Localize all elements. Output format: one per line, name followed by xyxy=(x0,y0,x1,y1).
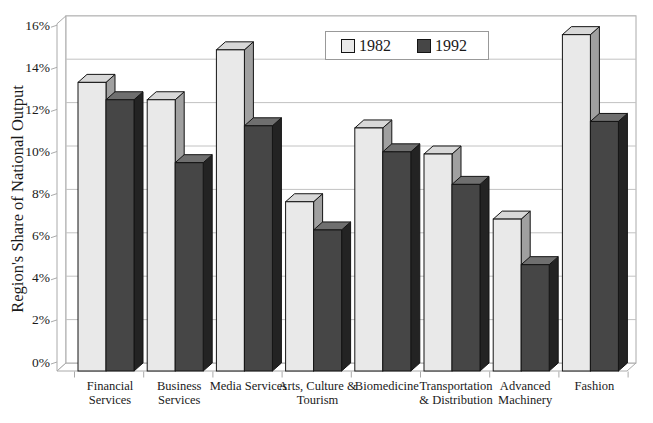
category-label-advanced-machinery: AdvancedMachinery xyxy=(498,379,553,408)
bar-arts-culture-tourism-1992 xyxy=(314,230,342,371)
legend-swatch-1992 xyxy=(417,39,431,53)
bar-fashion-1982 xyxy=(562,35,590,371)
bar-media-services-1992 xyxy=(244,126,272,371)
ytick-label-6pct: 6% xyxy=(32,228,50,243)
bar-business-services-1992-side xyxy=(203,155,212,371)
bar-financial-services-1992-side xyxy=(134,92,143,371)
bar-transportation-distribution-1992 xyxy=(452,184,480,371)
bar-arts-culture-tourism-1982 xyxy=(286,202,314,371)
ytick-mark-8pct xyxy=(51,194,57,196)
bar-transportation-distribution-1982 xyxy=(424,154,452,371)
ytick-mark-10pct xyxy=(51,152,57,154)
ytick-label-14pct: 14% xyxy=(25,60,50,75)
bar-advanced-machinery-1992-side xyxy=(549,257,558,371)
legend-item-1992: 1992 xyxy=(417,38,467,54)
ytick-label-8pct: 8% xyxy=(32,186,50,201)
bar-media-services-1982 xyxy=(216,50,244,371)
category-label-biomedicine: Biomedicine xyxy=(355,379,419,393)
bar-biomedicine-1992-side xyxy=(411,144,420,371)
bar-fashion-1992-side xyxy=(618,113,627,371)
category-label-media-services: Media Services xyxy=(210,379,288,393)
bar-financial-services-1982 xyxy=(78,82,106,371)
legend-label-1982: 1982 xyxy=(359,38,391,54)
ytick-label-0pct: 0% xyxy=(32,355,50,370)
ytick-label-12pct: 12% xyxy=(25,102,50,117)
bar-fashion-1992 xyxy=(590,121,618,371)
ytick-mark-0pct xyxy=(51,362,57,364)
bar-financial-services-1992 xyxy=(106,100,134,371)
category-label-financial-services: FinancialServices xyxy=(87,379,134,408)
legend-label-1992: 1992 xyxy=(435,38,467,54)
category-label-transportation-distribution: Transportation& Distribution xyxy=(419,379,493,408)
ytick-label-2pct: 2% xyxy=(32,312,50,327)
ytick-mark-16pct xyxy=(51,25,57,27)
bar-media-services-1992-side xyxy=(272,118,281,371)
bar-business-services-1982 xyxy=(147,100,175,371)
legend-swatch-1982 xyxy=(341,39,355,53)
bar-arts-culture-tourism-1992-side xyxy=(342,222,351,371)
ytick-label-10pct: 10% xyxy=(25,144,50,159)
category-label-arts-culture-tourism: Arts, Culture &Tourism xyxy=(279,379,357,408)
plot-left-wall xyxy=(57,16,66,371)
bar-advanced-machinery-1982 xyxy=(493,219,521,371)
bar-transportation-distribution-1992-side xyxy=(480,176,489,371)
category-label-fashion: Fashion xyxy=(575,379,615,393)
bar-biomedicine-1982 xyxy=(355,128,383,371)
chart-figure: Region's Share of National Output 0%2%4%… xyxy=(0,0,653,423)
bar-biomedicine-1992 xyxy=(383,152,411,371)
bar-business-services-1992 xyxy=(175,163,203,371)
legend: 1982 1992 xyxy=(325,31,489,60)
ytick-mark-12pct xyxy=(51,109,57,111)
legend-item-1982: 1982 xyxy=(341,38,391,54)
ytick-mark-6pct xyxy=(51,236,57,238)
chart-canvas: 0%2%4%6%8%10%12%14%16%FinancialServicesB… xyxy=(0,0,653,423)
ytick-label-4pct: 4% xyxy=(32,270,50,285)
category-label-business-services: BusinessServices xyxy=(157,379,202,408)
ytick-mark-14pct xyxy=(51,67,57,69)
ytick-mark-4pct xyxy=(51,278,57,280)
bar-advanced-machinery-1992 xyxy=(521,265,549,371)
ytick-label-16pct: 16% xyxy=(25,18,50,33)
ytick-mark-2pct xyxy=(51,320,57,322)
